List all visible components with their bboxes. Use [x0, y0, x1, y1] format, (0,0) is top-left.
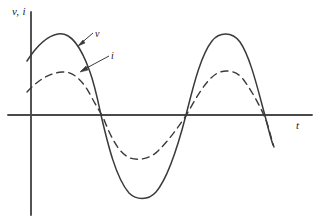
v-leader-arrowhead — [78, 40, 85, 46]
curve-v-group — [27, 34, 273, 199]
x-axis-label: t — [296, 119, 299, 131]
current-curve-label: i — [111, 50, 114, 61]
ac-waveform-figure: v, i t v i — [0, 0, 330, 222]
axes-group — [8, 12, 312, 215]
leader-lines-group — [78, 33, 109, 72]
i-leader-arrowhead — [80, 66, 88, 72]
voltage-curve-solid — [27, 34, 273, 199]
waveform-plot — [0, 0, 330, 222]
voltage-curve-label: v — [95, 28, 99, 39]
y-axis-label: v, i — [12, 5, 26, 17]
